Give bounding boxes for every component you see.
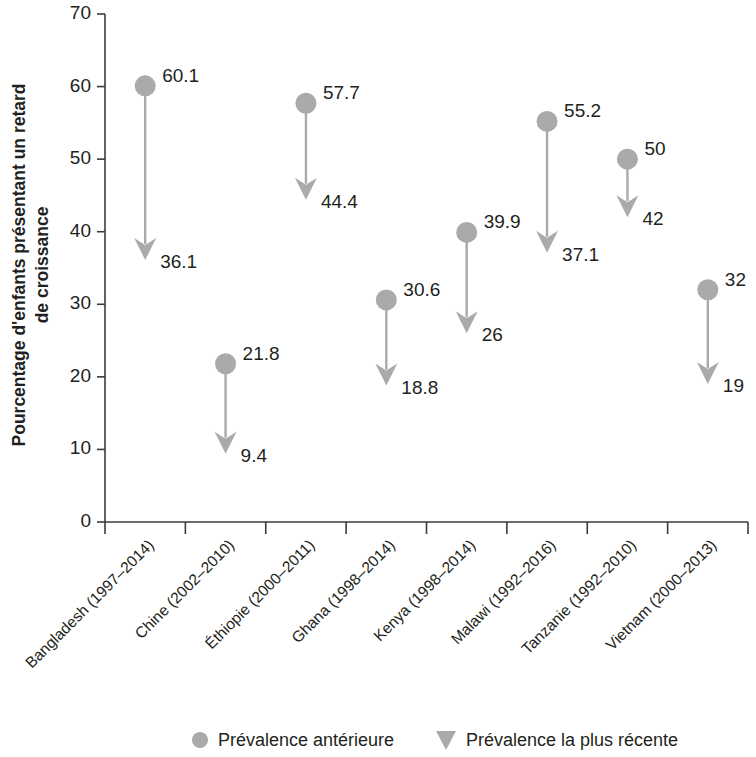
- previous-prevalence-circle-marker: [376, 289, 397, 310]
- y-tick-label-40: 40: [70, 220, 91, 241]
- y-axis-label-line-2: de croissance: [32, 206, 52, 323]
- legend-item-previous-prevalence: Prévalence antérieure: [192, 730, 394, 750]
- y-tick-label-50: 50: [70, 147, 91, 168]
- previous-prevalence-value-label: 60.1: [162, 65, 199, 86]
- previous-prevalence-circle-marker: [215, 353, 236, 374]
- previous-prevalence-circle-marker: [295, 93, 316, 114]
- previous-prevalence-value-label: 30.6: [403, 279, 440, 300]
- y-tick-label-0: 0: [80, 510, 91, 531]
- y-tick-label-20: 20: [70, 365, 91, 386]
- recent-prevalence-value-label: 26: [482, 324, 503, 345]
- legend-label-previous: Prévalence antérieure: [218, 730, 394, 750]
- legend-item-recent-prevalence: Prévalence la plus récente: [436, 730, 678, 750]
- previous-prevalence-circle-marker: [537, 111, 558, 132]
- recent-prevalence-value-label: 18.8: [401, 377, 438, 398]
- chart-background: [0, 0, 756, 757]
- previous-prevalence-value-label: 55.2: [564, 100, 601, 121]
- recent-prevalence-value-label: 37.1: [562, 244, 599, 265]
- stunting-prevalence-chart: Pourcentage d'enfants présentant un reta…: [0, 0, 756, 757]
- recent-prevalence-value-label: 36.1: [160, 251, 197, 272]
- recent-prevalence-value-label: 9.4: [241, 445, 268, 466]
- y-axis-label-line-1: Pourcentage d'enfants présentant un reta…: [9, 84, 29, 447]
- previous-prevalence-value-label: 57.7: [323, 82, 360, 103]
- legend-circle-icon: [192, 732, 208, 748]
- previous-prevalence-circle-marker: [135, 75, 156, 96]
- y-tick-label-10: 10: [70, 437, 91, 458]
- y-tick-label-70: 70: [70, 2, 91, 23]
- y-tick-label-60: 60: [70, 75, 91, 96]
- previous-prevalence-circle-marker: [697, 279, 718, 300]
- recent-prevalence-value-label: 19: [723, 375, 744, 396]
- recent-prevalence-value-label: 44.4: [321, 191, 358, 212]
- previous-prevalence-value-label: 32: [725, 269, 746, 290]
- previous-prevalence-value-label: 21.8: [243, 343, 280, 364]
- legend-label-recent: Prévalence la plus récente: [466, 730, 678, 750]
- previous-prevalence-value-label: 39.9: [484, 211, 521, 232]
- y-tick-label-30: 30: [70, 292, 91, 313]
- previous-prevalence-circle-marker: [456, 222, 477, 243]
- recent-prevalence-value-label: 42: [642, 208, 663, 229]
- previous-prevalence-circle-marker: [617, 149, 638, 170]
- chart-container: Pourcentage d'enfants présentant un reta…: [0, 0, 756, 757]
- previous-prevalence-value-label: 50: [644, 138, 665, 159]
